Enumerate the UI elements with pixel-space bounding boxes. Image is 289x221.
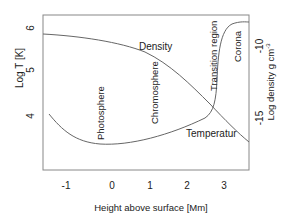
y-tick-6: 6 bbox=[25, 25, 36, 31]
chromosphere-label: Chromosphere bbox=[149, 61, 160, 124]
temperature-label: Temperatur bbox=[186, 128, 237, 139]
y-tick-5: 5 bbox=[25, 67, 36, 73]
y-axis-label: Log T [K] bbox=[14, 48, 25, 88]
x-tick-0: 0 bbox=[109, 180, 115, 191]
x-tick-3: 3 bbox=[221, 180, 227, 191]
transition-region-label: Transition region bbox=[208, 21, 219, 91]
y-right-axis-label: Log density g cm-3 bbox=[265, 43, 276, 121]
solar-atmosphere-chart: 6 5 4 Log T [K] -10 -15 Log density g cm… bbox=[0, 0, 289, 221]
corona-label: Corona bbox=[232, 30, 243, 62]
density-label: Density bbox=[139, 41, 172, 52]
y-right-tick-minus15: -15 bbox=[254, 110, 265, 125]
photosphere-label: Photosphere bbox=[95, 86, 106, 140]
y-right-tick-minus10: -10 bbox=[254, 38, 265, 53]
y-tick-4: 4 bbox=[25, 113, 36, 119]
x-tick-minus1: -1 bbox=[62, 180, 71, 191]
x-tick-1: 1 bbox=[147, 180, 153, 191]
x-tick-2: 2 bbox=[184, 180, 190, 191]
x-axis-label: Height above surface [Mm] bbox=[94, 202, 208, 213]
